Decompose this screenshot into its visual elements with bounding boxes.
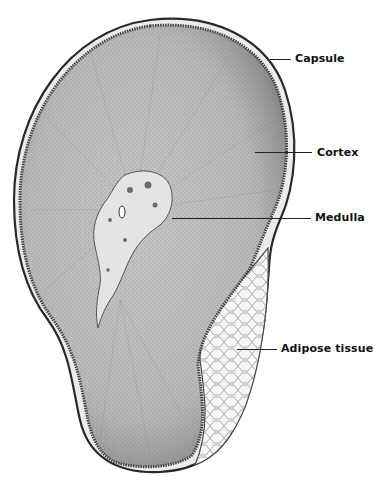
adipose-leader-line [237,349,277,350]
medulla-label: Medulla [315,211,365,224]
capsule-label: Capsule [295,52,345,65]
cortex-leader-line [255,152,312,153]
capsule-leader-line [270,59,291,60]
adipose-tissue-label: Adipose tissue [281,342,373,355]
central-vein [119,206,125,218]
medulla-leader-line [172,218,311,219]
cortex-label: Cortex [317,146,358,159]
